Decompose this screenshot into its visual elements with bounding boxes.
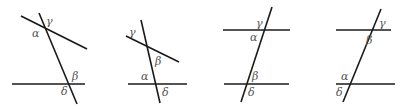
angle-label: δ: [61, 85, 68, 98]
angle-label: δ: [162, 86, 169, 99]
line-2: [39, 13, 77, 104]
line-2: [343, 9, 381, 102]
angle-label: β: [71, 70, 78, 83]
panel-1: γαβδ: [12, 13, 87, 104]
line-1: [126, 36, 179, 62]
angle-label: β: [365, 34, 372, 47]
angle-label: β: [251, 70, 258, 83]
panel-3: γαβδ: [223, 7, 290, 102]
angle-label: α: [250, 31, 258, 44]
angle-label: δ: [248, 86, 255, 99]
panel-4: γβαδ: [336, 9, 395, 102]
angle-label: δ: [336, 86, 343, 99]
angle-label: α: [32, 27, 40, 40]
panel-2: γβαδ: [126, 20, 187, 103]
angle-label: γ: [379, 17, 386, 30]
angle-diagrams-figure: γαβδγβαδγαβδγβαδ: [0, 0, 402, 109]
angle-label: γ: [129, 26, 136, 39]
line-1: [21, 16, 87, 49]
angle-label: β: [154, 55, 161, 68]
angle-label: α: [141, 70, 149, 83]
angle-label: γ: [256, 17, 263, 30]
angle-label: γ: [46, 15, 53, 28]
angle-label: α: [341, 70, 349, 83]
